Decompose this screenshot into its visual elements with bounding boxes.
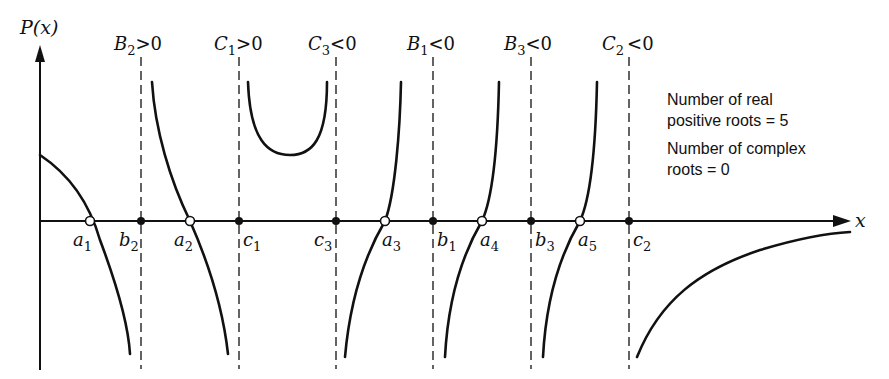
pole-c1 — [235, 217, 243, 225]
root-a3 — [381, 217, 390, 226]
x-axis-arrow-icon — [833, 215, 851, 227]
root-a1 — [86, 217, 95, 226]
note-line-3: Number of complex — [667, 140, 806, 157]
y-axis-label: P(x) — [19, 16, 58, 38]
label-a2: a2 — [174, 229, 193, 254]
label-a4: a4 — [480, 229, 499, 254]
asymptotes — [141, 57, 629, 369]
root-a5 — [576, 217, 585, 226]
curve-segment-1 — [40, 155, 130, 354]
curve-segment-4 — [345, 82, 401, 357]
label-C1: C1>0 — [214, 33, 263, 58]
label-b2: b2 — [119, 229, 139, 254]
label-C2: C2<0 — [602, 33, 654, 58]
root-locus-diagram: P(x) x B2>0 C1>0 C3<0 B1<0 B3<0 C2<0 — [0, 0, 889, 379]
curve-segment-6 — [543, 82, 597, 357]
label-c1: c1 — [243, 229, 261, 254]
root-count-notes: Number of real positive roots = 5 Number… — [667, 91, 806, 178]
pole-b1 — [429, 217, 437, 225]
note-line-2: positive roots = 5 — [667, 112, 789, 129]
axes: P(x) x — [19, 16, 866, 370]
x-axis-label: x — [855, 209, 866, 231]
pole-b2 — [137, 217, 145, 225]
pole-c3 — [332, 217, 340, 225]
label-c2: c2 — [633, 229, 651, 254]
label-B3: B3<0 — [503, 33, 552, 58]
note-line-4: roots = 0 — [667, 161, 730, 178]
label-B2: B2>0 — [113, 33, 162, 58]
root-a2 — [186, 217, 195, 226]
label-b3: b3 — [535, 229, 555, 254]
label-B1: B1<0 — [406, 33, 455, 58]
curve-segment-5 — [445, 82, 499, 357]
root-a4 — [478, 217, 487, 226]
pole-b3 — [527, 217, 535, 225]
label-a1: a1 — [73, 229, 92, 254]
label-a3: a3 — [382, 229, 401, 254]
label-a5: a5 — [578, 229, 597, 254]
label-c3: c3 — [314, 229, 332, 254]
label-b1: b1 — [437, 229, 457, 254]
label-C3: C3<0 — [308, 33, 357, 58]
curve-segment-7 — [637, 232, 850, 357]
curve-segment-3-u — [248, 82, 327, 155]
asymptote-labels: B2>0 C1>0 C3<0 B1<0 B3<0 C2<0 — [113, 33, 654, 58]
note-line-1: Number of real — [667, 91, 773, 108]
pole-c2 — [625, 217, 633, 225]
y-axis-arrow-icon — [35, 45, 45, 62]
